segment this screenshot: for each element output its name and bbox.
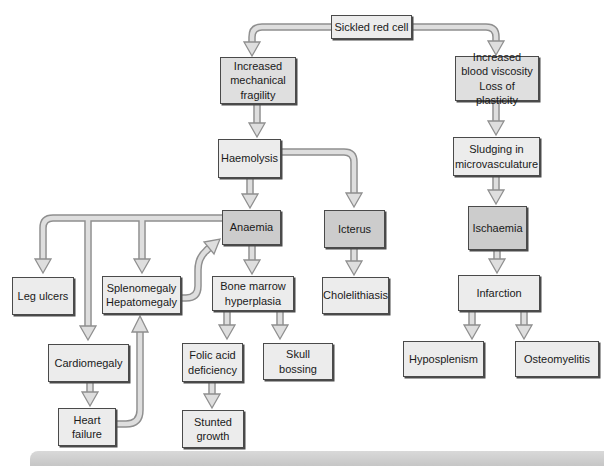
node-heart-failure: Heart failure [58,408,116,446]
arrow-infarction-to-osteomyelitis [516,311,532,339]
node-hyposplenism: Hyposplenism [403,341,484,377]
arrow-icterus-to-cholelithiasis [346,248,362,275]
arrow-anaemia-to-bone-marrow [244,245,260,274]
node-ischaemia: Ischaemia [468,206,527,250]
arrow-bone-marrow-to-skull-bossing [272,311,288,339]
node-osteomyelitis: Osteomyelitis [515,341,599,377]
node-anaemia: Anaemia [222,210,281,245]
node-sickled-red-cell: Sickled red cell [331,15,412,39]
node-cardiomegaly: Cardiomegaly [48,344,129,382]
node-bone-marrow-hyperplasia: Bone marrow hyperplasia [212,276,294,311]
node-folic-acid-deficiency: Folic acid deficiency [182,343,243,382]
arrow-haemolysis-to-icterus [281,152,362,207]
node-infarction: Infarction [458,275,540,311]
arrow-haemolysis-to-anaemia [242,178,258,208]
node-haemolysis: Haemolysis [218,139,281,178]
node-cholelithiasis: Cholelithiasis [322,277,389,314]
arrow-infarction-to-hyposplenism [464,311,480,339]
node-leg-ulcers: Leg ulcers [12,277,74,315]
node-stunted-growth: Stunted growth [182,410,244,448]
node-icterus: Icterus [324,210,385,248]
node-increased-mechanical-fragility: Increased mechanical fragility [220,57,296,104]
arrow-bone-marrow-to-folic-acid [219,311,235,339]
node-increased-blood-viscosity: Increased blood viscosity Loss of plasti… [455,56,539,101]
arrow-sludging-to-ischaemia [488,176,504,204]
page-footer-bar [30,451,604,466]
node-sludging-in-microvasculature: Sludging in microvasculature [453,137,540,176]
arrow-sickled-to-mech-fragility [244,27,331,56]
node-skull-bossing: Skull bossing [263,343,333,380]
flowchart-diagram: Sickled red cell Increased mechanical fr… [0,0,604,466]
arrow-folic-acid-to-stunted-growth [204,382,220,408]
arrow-mech-fragility-to-haemolysis [249,104,265,137]
arrow-cardiomegaly-to-heart-failure [82,382,98,406]
arrow-ischaemia-to-infarction [489,250,505,273]
node-splenomegaly-hepatomegaly: Splenomegaly Hepatomegaly [102,276,181,314]
